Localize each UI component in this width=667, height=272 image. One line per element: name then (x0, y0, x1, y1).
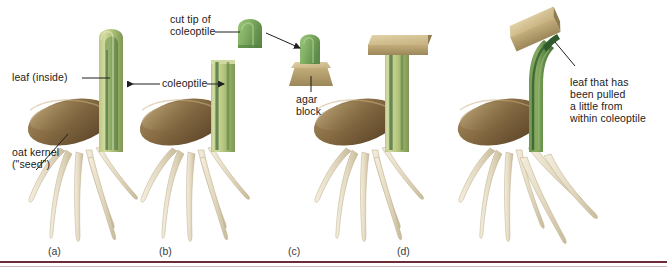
label-leaf-inside: leaf (inside) (12, 71, 68, 83)
panel-letter-c: (c) (288, 245, 300, 257)
agar-block-c (368, 35, 432, 55)
agar-block-d (506, 7, 564, 52)
panel-letter-d: (d) (397, 245, 410, 257)
label-agar-block-line2: block (296, 105, 321, 117)
bottom-rule (0, 261, 667, 263)
roots-d (459, 147, 598, 244)
panel-letter-a: (a) (48, 245, 61, 257)
coleoptile-stump-c (385, 48, 409, 152)
coleoptile-a (99, 29, 123, 152)
coleoptile-stump-b (211, 60, 235, 152)
panel-letter-b: (b) (159, 245, 172, 257)
label-leaf-pulled-line3: a little from (570, 100, 623, 112)
coleoptile-bent-d (529, 34, 560, 152)
label-coleoptile: coleoptile (162, 77, 207, 89)
arrow-tip-to-agar (266, 33, 300, 48)
label-leaf-pulled-line4: within coleoptile (570, 112, 646, 124)
label-agar-block-line1: agar (296, 93, 317, 105)
roots-b (141, 147, 250, 242)
label-cut-tip-line1: cut tip of (170, 13, 211, 25)
panel-b-artwork (135, 19, 333, 242)
roots-c (315, 147, 424, 242)
coleoptile-figure: leaf (inside) coleoptile cut tip of cole… (0, 0, 667, 272)
label-leaf-pulled-line1: leaf that has (570, 76, 629, 88)
panel-a-artwork (23, 29, 137, 242)
cut-tip-b (238, 19, 262, 48)
panel-d-artwork (453, 7, 597, 244)
label-leaf-pulled-line2: been pulled (570, 88, 625, 100)
bottom-rule-secondary (0, 266, 667, 267)
label-cut-tip-line2: coleoptile (170, 25, 215, 37)
leader-leaf-pulled (555, 42, 575, 66)
figure-artwork (0, 0, 667, 272)
label-oat-kernel-line2: ("seed") (12, 158, 50, 170)
label-oat-kernel-line1: oat kernel (12, 146, 59, 158)
